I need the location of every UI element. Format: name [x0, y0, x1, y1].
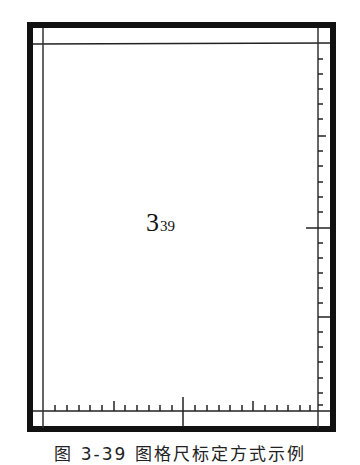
figure-label-main: 3 [146, 208, 159, 237]
figure-caption: 图 3-39 图格尺标定方式示例 [0, 440, 360, 465]
figure-label: 339 [146, 208, 175, 238]
top-inner-line [33, 43, 330, 44]
figure-label-sub: 39 [160, 218, 175, 234]
right-ticks [318, 59, 326, 405]
